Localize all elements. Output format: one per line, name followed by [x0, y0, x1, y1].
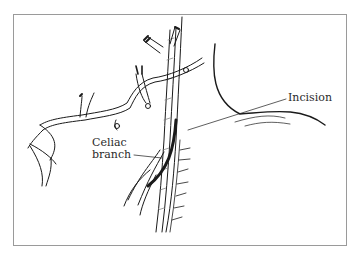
celiac-label-line2: branch [92, 149, 142, 161]
main-nerve-trunk [156, 28, 176, 232]
stomach-edge [170, 140, 190, 232]
incision-label: Incision [288, 92, 332, 104]
anatomy-illustration [0, 0, 359, 254]
stomach-contour [214, 44, 325, 125]
celiac-branch-label: Celiac branch [92, 137, 142, 161]
incision-leader-line [188, 99, 286, 130]
incision-mark [148, 120, 176, 186]
